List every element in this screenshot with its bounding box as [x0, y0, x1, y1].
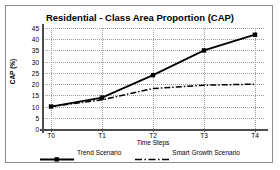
series-layer: [42, 28, 264, 129]
y-tick-label: 40: [19, 36, 39, 43]
x-tick-label: T0: [47, 132, 55, 139]
x-tick-label: T2: [149, 132, 157, 139]
y-axis-title: CAP (%): [9, 48, 16, 96]
y-tick-label: 15: [19, 92, 39, 99]
legend-label: Smart Growth Scenario: [172, 149, 240, 156]
series-line: [51, 84, 255, 106]
legend-swatch-icon: [135, 149, 169, 156]
data-point-marker: [202, 48, 206, 52]
legend-item[interactable]: Trend Scenario: [40, 149, 121, 156]
x-tick-label: T4: [251, 132, 259, 139]
x-tick-label: T1: [98, 132, 106, 139]
chart-title: Residential - Class Area Proportion (CAP…: [6, 12, 274, 23]
y-tick-label: 45: [19, 25, 39, 32]
legend-label: Trend Scenario: [77, 149, 121, 156]
y-tick-label: 20: [19, 81, 39, 88]
data-point-marker: [253, 33, 257, 37]
y-tick-label: 35: [19, 47, 39, 54]
y-tick-label: 0: [19, 126, 39, 133]
data-point-marker: [151, 73, 155, 77]
plot-area: 051015202530354045 T0T1T2T3T4: [42, 28, 264, 129]
y-tick-label: 10: [19, 103, 39, 110]
x-tick-label: T3: [200, 132, 208, 139]
x-axis-title: Time Steps: [42, 139, 264, 146]
y-tick-label: 5: [19, 114, 39, 121]
series-line: [51, 35, 255, 107]
legend-item[interactable]: Smart Growth Scenario: [135, 149, 240, 156]
y-tick-label: 25: [19, 69, 39, 76]
legend-swatch-icon: [40, 149, 74, 156]
chart-legend: Trend ScenarioSmart Growth Scenario: [6, 149, 274, 156]
x-axis-line: [40, 129, 268, 131]
chart-frame: Residential - Class Area Proportion (CAP…: [5, 5, 273, 163]
y-tick-label: 30: [19, 58, 39, 65]
